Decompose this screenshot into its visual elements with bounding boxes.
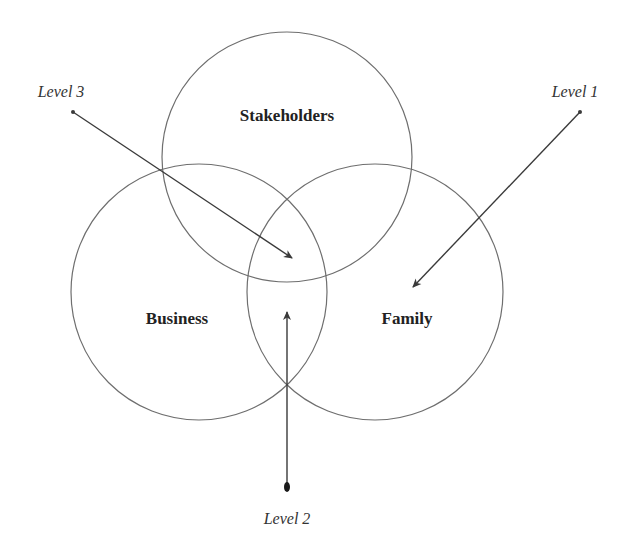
family-circle xyxy=(247,164,503,420)
level-1-start-dot-icon xyxy=(578,110,582,114)
level-3-label: Level 3 xyxy=(37,83,85,100)
level-3-start-dot-icon xyxy=(71,110,75,114)
level-3-arrow-icon xyxy=(73,112,292,258)
level-1-pointer: Level 1 xyxy=(413,83,598,287)
venn-diagram: Stakeholders Business Family Level 3 Lev… xyxy=(0,0,631,547)
level-1-label: Level 1 xyxy=(551,83,599,100)
level-2-pointer: Level 2 xyxy=(263,312,311,527)
business-circle xyxy=(71,164,327,420)
stakeholders-label: Stakeholders xyxy=(240,106,335,125)
level-1-arrow-icon xyxy=(413,112,580,287)
level-2-start-dot-icon xyxy=(284,482,290,492)
diagram-svg: Stakeholders Business Family Level 3 Lev… xyxy=(0,0,631,547)
level-2-label: Level 2 xyxy=(263,510,311,527)
stakeholders-circle xyxy=(162,32,412,282)
family-label: Family xyxy=(382,309,433,328)
business-label: Business xyxy=(146,309,209,328)
